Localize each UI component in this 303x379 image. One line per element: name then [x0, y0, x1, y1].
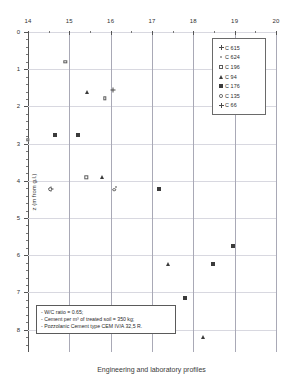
y-axis-minor-tick — [26, 136, 28, 137]
x-axis-tick-label: 18 — [190, 18, 197, 24]
y-axis-tick — [24, 144, 28, 145]
data-point — [231, 244, 235, 248]
legend-item[interactable]: C 196 — [217, 62, 262, 72]
legend-marker-icon — [217, 45, 225, 51]
x-axis-minor-tick — [173, 31, 174, 33]
y-axis-tick-label: 2 — [17, 103, 20, 109]
y-axis-tick-label: 0 — [17, 29, 20, 35]
data-point — [103, 97, 106, 100]
legend-item[interactable]: C 624 — [217, 53, 262, 63]
data-point — [53, 133, 57, 137]
y-axis-minor-tick — [26, 248, 28, 249]
y-axis-tick — [24, 69, 28, 70]
y-axis-tick — [24, 255, 28, 256]
y-axis-minor-tick — [26, 129, 28, 130]
legend-item-label: C 66 — [225, 102, 237, 108]
y-axis-minor-tick — [26, 300, 28, 301]
legend-item[interactable]: C 66 — [217, 101, 262, 111]
y-axis-minor-tick — [26, 188, 28, 189]
data-point — [166, 262, 170, 266]
x-axis-tick-label: 19 — [231, 18, 238, 24]
figure-caption: Engineering and laboratory profiles — [0, 366, 303, 379]
x-axis-tick-label: 17 — [148, 18, 155, 24]
y-axis-minor-tick — [26, 99, 28, 100]
y-axis-tick-label: 1 — [17, 66, 20, 72]
data-point — [201, 335, 205, 339]
y-axis-title: z (m from g.l.) — [31, 174, 37, 211]
data-point — [112, 188, 116, 192]
x-axis-tick — [276, 31, 277, 35]
y-axis-minor-tick — [26, 263, 28, 264]
y-axis-minor-tick — [26, 159, 28, 160]
y-axis-minor-tick — [26, 121, 28, 122]
data-point — [63, 60, 66, 63]
y-axis-tick-label: 8 — [17, 327, 20, 333]
x-axis-tick — [193, 31, 194, 35]
x-axis-tick-label: 20 — [272, 18, 279, 24]
legend-item-label: C 94 — [225, 74, 237, 80]
data-point — [100, 175, 104, 179]
y-axis-tick-label: 3 — [17, 141, 20, 147]
legend-item-label: C 135 — [225, 93, 240, 99]
x-axis-tick — [111, 31, 112, 35]
y-axis-minor-tick — [26, 114, 28, 115]
legend-item-label: C 196 — [225, 64, 240, 70]
x-axis-tick-label: 16 — [107, 18, 114, 24]
y-axis-minor-tick — [26, 92, 28, 93]
data-point — [48, 187, 52, 191]
data-point — [110, 88, 115, 93]
data-point — [26, 138, 29, 141]
note-line: - Pozzolanic Cement type CEM IV/A 32,5 R… — [41, 323, 171, 330]
y-axis-tick — [24, 292, 28, 293]
y-axis-tick — [24, 181, 28, 182]
y-axis-minor-tick — [26, 337, 28, 338]
data-point — [183, 296, 187, 300]
note-box: - W/C ratio = 0.65;- Cement per m³ of tr… — [36, 305, 176, 334]
legend-item[interactable]: C 176 — [217, 81, 262, 91]
y-axis-tick-label: 6 — [17, 252, 20, 258]
y-axis-minor-tick — [26, 278, 28, 279]
x-axis-minor-tick — [131, 31, 132, 33]
legend-marker-icon — [217, 102, 225, 108]
gridline-vertical — [276, 32, 277, 352]
legend-marker-icon — [217, 74, 225, 80]
legend-item[interactable]: C 615 — [217, 43, 262, 53]
x-axis-minor-tick — [49, 31, 50, 33]
figure: 01234567814151617181920 z (m from g.l.) … — [0, 0, 303, 379]
y-axis-minor-tick — [26, 39, 28, 40]
x-axis-tick — [69, 31, 70, 35]
y-axis-minor-tick — [26, 270, 28, 271]
y-axis-minor-tick — [26, 315, 28, 316]
gridline-vertical — [69, 32, 70, 352]
x-axis-minor-tick — [214, 31, 215, 33]
legend-marker-icon — [217, 93, 225, 99]
y-axis-minor-tick — [26, 225, 28, 226]
y-axis-minor-tick — [26, 233, 28, 234]
y-axis-minor-tick — [26, 77, 28, 78]
y-axis-minor-tick — [26, 151, 28, 152]
legend-item-label: C 624 — [225, 54, 240, 60]
legend-item[interactable]: C 135 — [217, 91, 262, 101]
data-point — [85, 176, 88, 179]
x-axis-tick-label: 15 — [66, 18, 73, 24]
y-axis-tick-label: 7 — [17, 289, 20, 295]
legend-marker-icon — [217, 54, 225, 60]
y-axis-minor-tick — [26, 285, 28, 286]
legend-marker-icon — [217, 83, 225, 89]
gridline-vertical — [152, 32, 153, 352]
x-axis-tick — [235, 31, 236, 35]
y-axis-minor-tick — [26, 322, 28, 323]
x-axis-minor-tick — [255, 31, 256, 33]
y-axis-tick — [24, 218, 28, 219]
y-axis-minor-tick — [26, 47, 28, 48]
y-axis-minor-tick — [26, 203, 28, 204]
gridline-vertical — [193, 32, 194, 352]
legend-marker-icon — [217, 64, 225, 70]
note-line: - W/C ratio = 0.65; — [41, 309, 171, 316]
legend-item-label: C 176 — [225, 83, 240, 89]
legend-item[interactable]: C 94 — [217, 72, 262, 82]
y-axis-tick — [24, 330, 28, 331]
y-axis-minor-tick — [26, 211, 28, 212]
x-axis-minor-tick — [90, 31, 91, 33]
gridline-vertical — [111, 32, 112, 352]
